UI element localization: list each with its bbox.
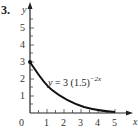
svg-text:3: 3 (78, 117, 83, 128)
svg-text:5: 5 (112, 117, 117, 128)
svg-text:4: 4 (20, 39, 25, 50)
x-axis-arrow-icon (126, 111, 133, 116)
exponential-decay-chart: y x 1 2 3 4 5 0 1 2 3 4 5 y = 3 (1.5)−2x (0, 0, 138, 129)
y-axis (28, 2, 35, 113)
y-intercept-point (28, 60, 32, 64)
svg-text:4: 4 (95, 117, 100, 128)
svg-text:5: 5 (20, 22, 25, 33)
svg-text:0: 0 (19, 117, 24, 128)
y-tick-labels: 1 2 3 4 5 (20, 22, 25, 101)
y-axis-arrow-icon (28, 2, 33, 9)
x-axis-label: x (132, 116, 138, 127)
x-tick-labels: 0 1 2 3 4 5 (19, 117, 117, 128)
y-axis-label: y (21, 4, 27, 15)
svg-text:1: 1 (20, 90, 25, 101)
curve-equation: y = 3 (1.5)−2x (47, 75, 102, 89)
svg-text:2: 2 (61, 117, 66, 128)
svg-text:2: 2 (20, 73, 25, 84)
svg-text:3: 3 (20, 56, 25, 67)
x-axis (30, 109, 133, 116)
svg-text:1: 1 (44, 117, 49, 128)
